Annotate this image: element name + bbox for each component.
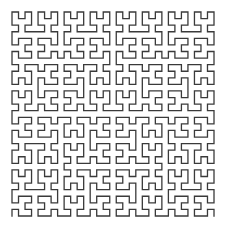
hilbert-curve-path [12, 12, 214, 216]
figure-canvas: Hilbert curve [0, 0, 228, 235]
hilbert-curve-diagram [0, 0, 228, 235]
